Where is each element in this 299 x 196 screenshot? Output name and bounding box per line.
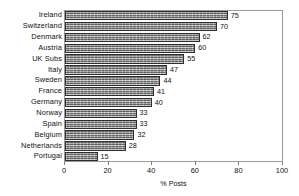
bar-row: Portugal15 — [0, 151, 299, 162]
x-tick-mark — [108, 162, 109, 165]
category-label: Netherlands — [21, 142, 62, 150]
bar-track: 47 — [65, 65, 282, 74]
category-label: Sweden — [35, 76, 62, 84]
bar-value-label: 75 — [231, 12, 239, 20]
bar — [65, 44, 195, 53]
x-axis: 020406080100 % Posts — [64, 162, 283, 196]
bar-value-label: 44 — [163, 77, 171, 85]
bar — [65, 152, 98, 161]
bar — [65, 98, 152, 107]
x-tick-label: 80 — [234, 166, 242, 175]
category-label: Belgium — [35, 131, 62, 139]
bar-row: Netherlands28 — [0, 140, 299, 151]
bar-value-label: 70 — [220, 23, 228, 31]
bar-track: 60 — [65, 44, 282, 53]
bar-row: France41 — [0, 86, 299, 97]
bar — [65, 65, 167, 74]
bar — [65, 87, 154, 96]
bar-track: 32 — [65, 130, 282, 139]
bar-track: 33 — [65, 120, 282, 129]
bar-row: UK Subs55 — [0, 53, 299, 64]
bar-value-label: 33 — [140, 109, 148, 117]
x-tick-mark — [238, 162, 239, 165]
bar-track: 62 — [65, 33, 282, 42]
bar-track: 33 — [65, 109, 282, 118]
bar-track: 70 — [65, 22, 282, 31]
bar-rows: Ireland75Switzerland70Denmark62Austria60… — [0, 10, 299, 162]
bar-chart: Ireland75Switzerland70Denmark62Austria60… — [0, 0, 299, 196]
x-axis-title: % Posts — [64, 179, 283, 188]
bar-track: 44 — [65, 76, 282, 85]
bar-value-label: 60 — [198, 44, 206, 52]
bar-value-label: 41 — [157, 88, 165, 96]
bar-row: Germany40 — [0, 97, 299, 108]
x-tick-label: 60 — [191, 166, 199, 175]
x-tick-label: 40 — [147, 166, 155, 175]
x-tick-mark — [64, 162, 65, 165]
bar-row: Belgium32 — [0, 129, 299, 140]
x-tick-mark — [282, 162, 283, 165]
bar-row: Sweden44 — [0, 75, 299, 86]
bar-track: 28 — [65, 141, 282, 150]
category-label: Portugal — [34, 152, 62, 160]
bar-value-label: 15 — [101, 153, 109, 161]
bar-track: 41 — [65, 87, 282, 96]
bar-value-label: 32 — [137, 131, 145, 139]
bar — [65, 11, 228, 20]
category-label: Austria — [38, 44, 62, 52]
bar-value-label: 33 — [140, 120, 148, 128]
bar-value-label: 40 — [155, 99, 163, 107]
category-label: Spain — [43, 120, 62, 128]
bar-value-label: 47 — [170, 66, 178, 74]
category-label: Italy — [48, 66, 62, 74]
bar-track: 55 — [65, 54, 282, 63]
x-tick-mark — [151, 162, 152, 165]
category-label: France — [38, 87, 62, 95]
bar — [65, 109, 137, 118]
x-tick-label: 100 — [276, 166, 288, 175]
bar-row: Austria60 — [0, 43, 299, 54]
category-label: UK Subs — [32, 55, 62, 63]
category-label: Denmark — [31, 33, 62, 41]
bar-row: Ireland75 — [0, 10, 299, 21]
x-tick-label: 20 — [103, 166, 111, 175]
bar — [65, 54, 184, 63]
category-label: Switzerland — [23, 22, 62, 30]
x-tick-label: 0 — [62, 166, 66, 175]
bar-row: Norway33 — [0, 108, 299, 119]
bar-row: Italy47 — [0, 64, 299, 75]
bar-value-label: 28 — [129, 142, 137, 150]
bar — [65, 22, 217, 31]
bar-row: Spain33 — [0, 118, 299, 129]
bar-value-label: 55 — [187, 55, 195, 63]
bar — [65, 130, 134, 139]
bar-track: 40 — [65, 98, 282, 107]
bar — [65, 141, 126, 150]
bar — [65, 120, 137, 129]
bar-track: 75 — [65, 11, 282, 20]
category-label: Germany — [31, 98, 62, 106]
x-tick-mark — [195, 162, 196, 165]
bar-track: 15 — [65, 152, 282, 161]
bar-row: Switzerland70 — [0, 21, 299, 32]
bar — [65, 76, 160, 85]
bar-value-label: 62 — [203, 33, 211, 41]
category-label: Ireland — [39, 11, 62, 19]
category-label: Norway — [36, 109, 62, 117]
bar-row: Denmark62 — [0, 32, 299, 43]
bar — [65, 33, 200, 42]
